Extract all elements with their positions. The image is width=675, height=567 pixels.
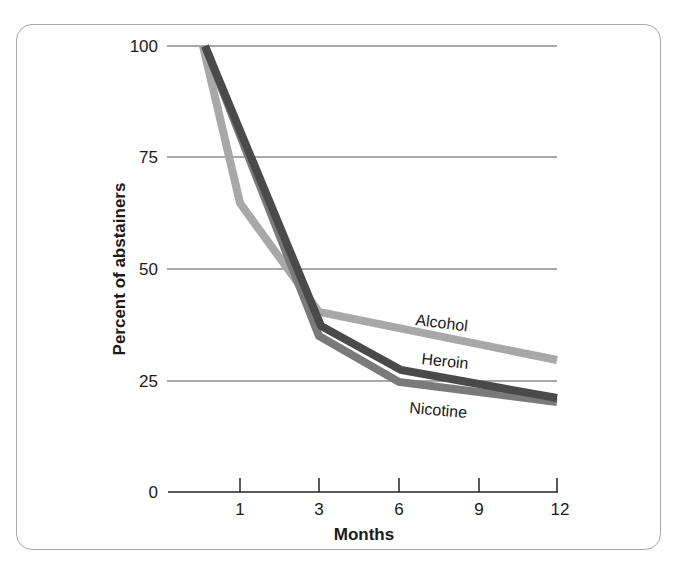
x-axis: 1 3 6 9 12 Months (168, 478, 569, 544)
x-tick-1: 1 (235, 500, 244, 519)
series-alcohol-line (203, 46, 557, 360)
series-labels: Alcohol Heroin Nicotine (409, 311, 470, 421)
x-tick-12: 12 (551, 500, 570, 519)
y-tick-0: 0 (149, 483, 158, 502)
x-axis-title: Months (334, 525, 394, 544)
x-tick-9: 9 (474, 500, 483, 519)
y-axis-title: Percent of abstainers (110, 183, 129, 356)
x-tick-3: 3 (314, 500, 323, 519)
y-tick-100: 100 (130, 37, 158, 56)
y-tick-50: 50 (139, 260, 158, 279)
label-nicotine: Nicotine (409, 399, 468, 421)
y-axis: 100 75 50 25 0 Percent of abstainers (110, 37, 158, 502)
x-tick-6: 6 (394, 500, 403, 519)
line-chart: 100 75 50 25 0 Percent of abstainers 1 3… (0, 0, 675, 567)
series-lines (203, 46, 557, 402)
y-tick-25: 25 (139, 372, 158, 391)
y-tick-75: 75 (139, 148, 158, 167)
label-heroin: Heroin (421, 350, 470, 372)
